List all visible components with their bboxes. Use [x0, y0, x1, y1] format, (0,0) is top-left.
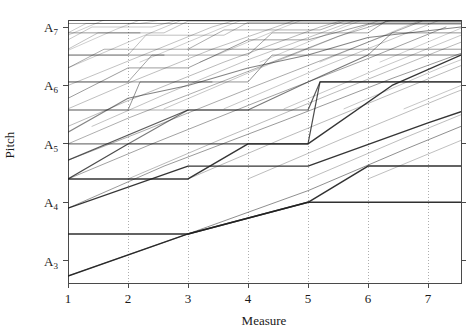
x-tick-label: 5 — [305, 291, 312, 306]
x-tick-label: 2 — [125, 291, 132, 306]
pitch-measure-chart: 1234567A3A4A5A6A7 Measure Pitch — [0, 0, 475, 335]
x-axis-title: Measure — [242, 313, 287, 328]
x-tick-label: 4 — [245, 291, 252, 306]
x-tick-label: 3 — [185, 291, 192, 306]
y-axis-title: Pitch — [2, 131, 17, 158]
x-tick-label: 6 — [365, 291, 372, 306]
x-tick-label: 1 — [65, 291, 72, 306]
chart-background — [0, 0, 475, 335]
chart-canvas: 1234567A3A4A5A6A7 Measure Pitch — [0, 0, 475, 335]
x-tick-label: 7 — [425, 291, 432, 306]
